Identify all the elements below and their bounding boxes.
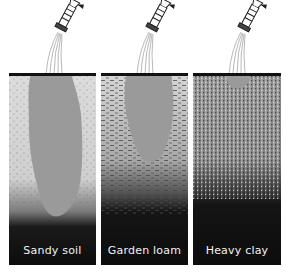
panel-label: Heavy clay — [193, 244, 281, 257]
soil-water-diagram: Sandy soil Garden loam — [0, 0, 286, 275]
hose-nozzle-icon — [30, 0, 90, 74]
panel-heavy-clay: Heavy clay — [193, 74, 281, 265]
panel-garden-loam: Garden loam — [101, 74, 188, 265]
panel-sandy-soil: Sandy soil — [9, 74, 96, 265]
soil-surface-line — [101, 73, 188, 76]
panel-label: Sandy soil — [9, 244, 96, 257]
panel-label: Garden loam — [101, 244, 188, 257]
hose-nozzle-icon — [213, 0, 273, 74]
soil-surface-line — [193, 73, 281, 76]
soil-surface-line — [9, 73, 96, 76]
hose-nozzle-icon — [121, 0, 181, 74]
